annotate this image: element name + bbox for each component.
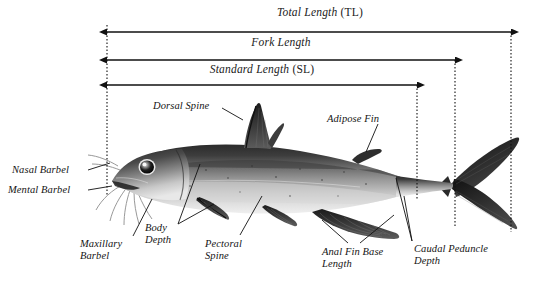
total-length-label: Total Length (TL) [277,6,363,18]
fish-measurement-diagram: Total Length (TL) Fork Length Standard L… [0,0,534,284]
pectoral-spine-label-line1: Pectoral [205,238,242,250]
body-depth-label-line2: Depth [145,234,171,246]
caudal-peduncle-depth-label: Caudal PeduncleDepth [414,243,488,267]
caudal-peduncle-depth-label-line2: Depth [414,255,488,267]
dorsal-fin [244,103,284,149]
total-length-abbr: (TL) [341,6,364,18]
standard-length-label: Standard Length (SL) [210,63,315,75]
nasal-barbel-label: Nasal Barbel [12,164,69,176]
anal-fin-base-length-label-line2: Length [322,258,383,270]
adipose-fin-label: Adipose Fin [327,113,379,125]
caudal-peduncle-depth-leader-2 [404,196,412,241]
anal-fin [312,209,399,239]
standard-length-abbr: (SL) [292,63,314,75]
body-depth-label: BodyDepth [145,222,171,246]
dorsal-spine-leader-1 [222,108,243,120]
body-depth-label-line1: Body [145,222,171,234]
mental-barbel-leader-1 [88,186,112,190]
total-length-name: Total Length [277,6,337,18]
dorsal-spine-label-line1: Dorsal Spine [153,100,209,112]
mental-barbel-label-line1: Mental Barbel [8,184,70,196]
anal-fin-base-length-label-line1: Anal Fin Base [322,246,383,258]
pectoral-spine-label: PectoralSpine [205,238,242,262]
caudal-peduncle [396,176,452,197]
standard-length-name: Standard Length [210,63,290,75]
maxillary-barbel-label: MaxillaryBarbel [80,238,122,262]
fork-length-label: Fork Length [251,36,310,48]
adipose-fin-leader-1 [366,124,378,152]
caudal-peduncle-depth-label-line1: Caudal Peduncle [414,243,488,255]
anal-fin-base-length-label: Anal Fin BaseLength [322,246,383,270]
maxillary-barbel-label-line2: Barbel [80,250,122,262]
adipose-fin [352,149,382,164]
eye [139,159,156,175]
mental-barbel-strand-2 [134,192,139,224]
fork-length-name: Fork Length [251,36,310,48]
mental-barbel-label: Mental Barbel [8,184,70,196]
adipose-fin-label-line1: Adipose Fin [327,113,379,125]
mental-barbel-strand [124,190,130,225]
pectoral-spine-label-line2: Spine [205,250,242,262]
maxillary-barbel-label-line1: Maxillary [80,238,122,250]
dorsal-spine-label: Dorsal Spine [153,100,209,112]
nasal-barbel-label-line1: Nasal Barbel [12,164,69,176]
